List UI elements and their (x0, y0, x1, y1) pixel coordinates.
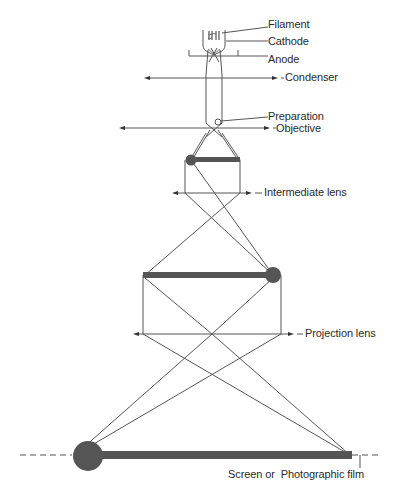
label-preparation: Preparation (268, 110, 324, 122)
projection-lens (133, 332, 303, 336)
electron-microscope-diagram: Filament Cathode Anode Condenser Prepara… (0, 0, 398, 492)
filament-icon (208, 31, 220, 54)
anode-icon (189, 50, 268, 56)
ray-diagram-canvas (0, 0, 398, 492)
filament-leader (222, 27, 268, 33)
electron-beam (206, 48, 222, 123)
preparation-leader (221, 117, 268, 121)
label-cathode: Cathode (268, 35, 309, 47)
label-projection-lens: Projection lens (305, 327, 376, 339)
label-anode: Anode (268, 53, 299, 65)
final-image (73, 441, 352, 471)
label-intermediate-lens: Intermediate lens (264, 186, 347, 198)
label-screen: Screen or Photographic film (228, 468, 364, 480)
label-filament: Filament (268, 18, 309, 30)
label-objective: Objective (276, 122, 321, 134)
label-condenser: Condenser (285, 71, 338, 83)
objective-lens (119, 126, 276, 130)
second-image (143, 267, 281, 283)
condenser-lens (144, 76, 284, 80)
